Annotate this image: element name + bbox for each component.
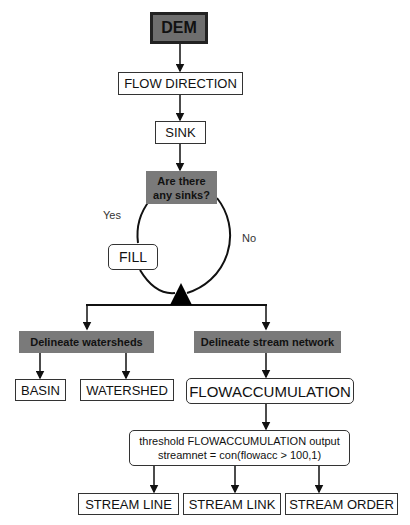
node-threshold: threshold FLOWACCUMULATION output stream… bbox=[129, 430, 350, 466]
node-label: FLOWACCUMULATION bbox=[189, 383, 351, 400]
node-stream-order: STREAM ORDER bbox=[285, 493, 398, 515]
node-stream-link: STREAM LINK bbox=[183, 493, 281, 515]
node-delineate-watersheds: Delineate watersheds bbox=[19, 331, 154, 353]
label-no: No bbox=[242, 232, 256, 244]
node-watershed: WATERSHED bbox=[80, 379, 174, 401]
node-label: FILL bbox=[119, 249, 147, 265]
node-flowaccumulation: FLOWACCUMULATION bbox=[186, 378, 354, 404]
decision-any-sinks: Are there any sinks? bbox=[146, 171, 217, 204]
node-label: WATERSHED bbox=[86, 383, 168, 398]
node-flow-direction: FLOW DIRECTION bbox=[118, 72, 243, 95]
node-sink: SINK bbox=[155, 121, 206, 144]
node-delineate-stream-network: Delineate stream network bbox=[194, 331, 341, 353]
node-label: SINK bbox=[165, 125, 195, 140]
threshold-line-1: threshold FLOWACCUMULATION output bbox=[139, 434, 340, 448]
node-dem: DEM bbox=[150, 12, 208, 44]
node-fill: FILL bbox=[108, 244, 158, 270]
node-label: Delineate watersheds bbox=[30, 336, 143, 348]
node-label: Delineate stream network bbox=[201, 336, 334, 348]
node-label: DEM bbox=[161, 19, 197, 37]
decision-line-2: any sinks? bbox=[153, 188, 210, 202]
threshold-line-2: streamnet = con(flowacc > 100,1) bbox=[158, 448, 321, 462]
node-label: STREAM LINK bbox=[189, 497, 276, 512]
node-label: STREAM ORDER bbox=[289, 497, 394, 512]
node-label: FLOW DIRECTION bbox=[124, 76, 237, 91]
node-basin: BASIN bbox=[15, 379, 66, 401]
node-label: BASIN bbox=[21, 383, 60, 398]
node-label: STREAM LINE bbox=[85, 497, 172, 512]
label-yes: Yes bbox=[103, 209, 121, 221]
decision-line-1: Are there bbox=[157, 174, 205, 188]
node-stream-line: STREAM LINE bbox=[78, 493, 179, 515]
